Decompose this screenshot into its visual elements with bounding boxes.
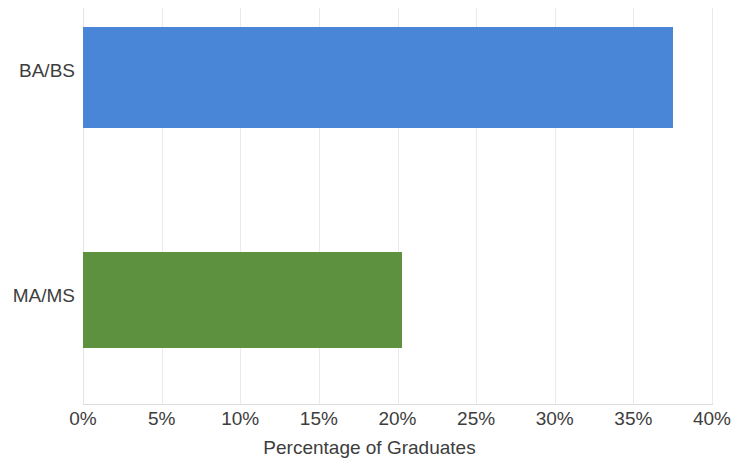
bar-ba-bs[interactable] (83, 27, 673, 128)
gridline (712, 8, 713, 405)
category-label-ma-ms: MA/MS (10, 285, 75, 307)
x-tick-label: 25% (441, 408, 511, 430)
bar-ma-ms[interactable] (83, 252, 402, 348)
bar-chart: BA/BSMA/MS 0%5%10%15%20%25%30%35%40% Per… (0, 0, 739, 466)
x-tick-label: 35% (598, 408, 668, 430)
category-label-ba-bs: BA/BS (10, 60, 75, 82)
x-tick-label: 15% (284, 408, 354, 430)
x-tick-label: 0% (48, 408, 118, 430)
x-tick-label: 40% (677, 408, 739, 430)
x-tick-label: 10% (205, 408, 275, 430)
x-tick-label: 30% (520, 408, 590, 430)
x-tick-label: 5% (127, 408, 197, 430)
x-tick-label: 20% (363, 408, 433, 430)
x-axis-title: Percentage of Graduates (0, 437, 739, 459)
chart-title (20, 0, 720, 6)
x-axis-baseline (83, 404, 713, 405)
plot-area (83, 8, 712, 405)
